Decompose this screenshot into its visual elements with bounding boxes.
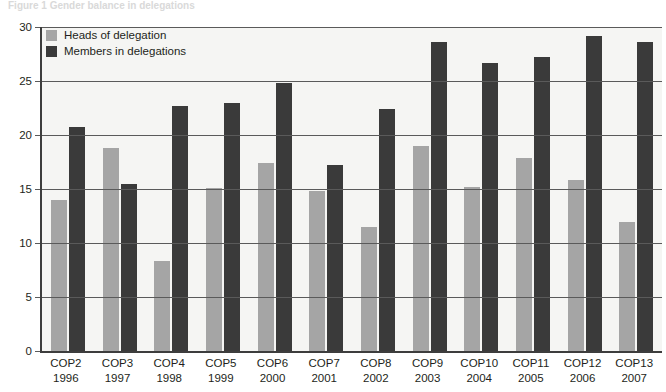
x-axis-category: COP9 xyxy=(412,357,443,369)
y-axis-tick-mark xyxy=(35,243,40,244)
x-axis-category: COP8 xyxy=(360,357,391,369)
x-axis-year: 1997 xyxy=(92,371,144,386)
bar[interactable] xyxy=(224,103,240,351)
y-axis-tick-mark xyxy=(35,189,40,190)
x-axis-tick-label: COP132007 xyxy=(608,356,660,390)
bar[interactable] xyxy=(327,165,343,351)
figure-caption: Figure 1 Gender balance in delegations xyxy=(8,0,548,12)
gridline xyxy=(42,297,662,298)
x-axis-tick-label: COP62000 xyxy=(247,356,299,390)
x-axis-tick-label: COP72001 xyxy=(298,356,350,390)
bar[interactable] xyxy=(619,222,635,351)
bar[interactable] xyxy=(379,109,395,351)
y-axis-tick-label: 10 xyxy=(2,238,32,248)
y-axis-tick-label: 0 xyxy=(2,346,32,356)
x-axis-category: COP7 xyxy=(309,357,340,369)
bar[interactable] xyxy=(258,163,274,351)
x-axis-year: 2002 xyxy=(350,371,402,386)
x-axis-tick-label: COP102004 xyxy=(453,356,505,390)
x-axis-year: 1998 xyxy=(143,371,195,386)
y-axis-tick-mark xyxy=(35,351,40,352)
gridline xyxy=(42,243,662,244)
bar[interactable] xyxy=(464,187,480,351)
legend-item-members-in-delegations: Members in delegations xyxy=(46,46,186,57)
bar[interactable] xyxy=(103,148,119,351)
y-axis-tick-mark xyxy=(35,135,40,136)
legend-label-members-in-delegations: Members in delegations xyxy=(64,46,186,57)
bar[interactable] xyxy=(121,184,137,351)
y-axis-tick-mark xyxy=(35,27,40,28)
x-axis-category: COP5 xyxy=(205,357,236,369)
x-axis-year: 2000 xyxy=(247,371,299,386)
bar[interactable] xyxy=(534,57,550,351)
gridline xyxy=(42,81,662,82)
x-axis-category: COP6 xyxy=(257,357,288,369)
bar[interactable] xyxy=(431,42,447,351)
bar[interactable] xyxy=(413,146,429,351)
bar[interactable] xyxy=(51,200,67,351)
x-axis-tick-label: COP51999 xyxy=(195,356,247,390)
x-axis-year: 2007 xyxy=(608,371,660,386)
bar[interactable] xyxy=(637,42,653,351)
x-axis-tick-label: COP82002 xyxy=(350,356,402,390)
gridline xyxy=(42,135,662,136)
y-axis-tick-label: 20 xyxy=(2,130,32,140)
x-axis-tick-label: COP41998 xyxy=(143,356,195,390)
x-axis-category: COP4 xyxy=(154,357,185,369)
bar[interactable] xyxy=(69,127,85,351)
x-axis-tick-label: COP112005 xyxy=(505,356,557,390)
x-axis-tick-label: COP31997 xyxy=(92,356,144,390)
bar[interactable] xyxy=(568,180,584,351)
x-axis-labels: COP21996COP31997COP41998COP51999COP62000… xyxy=(40,356,660,390)
legend-item-heads-of-delegation: Heads of delegation xyxy=(46,30,186,41)
x-axis-category: COP2 xyxy=(50,357,81,369)
bar[interactable] xyxy=(206,188,222,351)
chart-legend: Heads of delegation Members in delegatio… xyxy=(46,30,186,57)
x-axis-tick-label: COP92003 xyxy=(402,356,454,390)
y-axis-tick-label: 15 xyxy=(2,184,32,194)
legend-swatch-icon-light xyxy=(46,30,57,41)
gridline xyxy=(42,27,662,28)
y-axis-tick-label: 5 xyxy=(2,292,32,302)
y-axis-tick-mark xyxy=(35,297,40,298)
x-axis-line xyxy=(40,351,662,353)
plot-area xyxy=(40,27,662,351)
gridline xyxy=(42,189,662,190)
x-axis-category: COP10 xyxy=(460,357,498,369)
x-axis-year: 1999 xyxy=(195,371,247,386)
x-axis-category: COP13 xyxy=(615,357,653,369)
y-axis-tick-label: 25 xyxy=(2,76,32,86)
x-axis-year: 2001 xyxy=(298,371,350,386)
x-axis-year: 2005 xyxy=(505,371,557,386)
legend-swatch-icon-dark xyxy=(46,46,57,57)
bar[interactable] xyxy=(309,191,325,351)
x-axis-year: 2003 xyxy=(402,371,454,386)
x-axis-category: COP11 xyxy=(512,357,549,369)
bar[interactable] xyxy=(516,158,532,351)
x-axis-year: 1996 xyxy=(40,371,92,386)
x-axis-year: 2004 xyxy=(453,371,505,386)
legend-label-heads-of-delegation: Heads of delegation xyxy=(64,30,166,41)
bar[interactable] xyxy=(482,63,498,351)
y-axis-tick-label: 30 xyxy=(2,22,32,32)
x-axis-category: COP3 xyxy=(102,357,133,369)
bar[interactable] xyxy=(586,36,602,351)
chart-figure: Figure 1 Gender balance in delegations 0… xyxy=(0,0,666,392)
bar[interactable] xyxy=(172,106,188,351)
bar[interactable] xyxy=(276,83,292,351)
bar[interactable] xyxy=(154,261,170,351)
y-axis-tick-mark xyxy=(35,81,40,82)
bar[interactable] xyxy=(361,227,377,351)
x-axis-tick-label: COP122006 xyxy=(557,356,609,390)
x-axis-year: 2006 xyxy=(557,371,609,386)
x-axis-tick-label: COP21996 xyxy=(40,356,92,390)
x-axis-category: COP12 xyxy=(564,357,602,369)
